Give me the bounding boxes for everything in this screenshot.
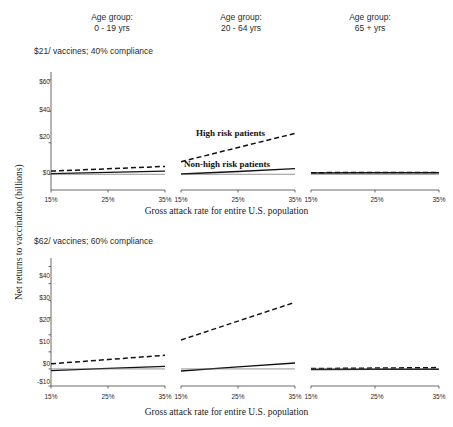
annotation-high-risk-patients: High risk patients bbox=[196, 128, 265, 138]
column-header-label-line1: Age group: bbox=[57, 12, 167, 23]
figure-root: Age group: 0 - 19 yrs Age group: 20 - 64… bbox=[0, 0, 453, 427]
y-tick-label-bottom: -$10 bbox=[22, 378, 50, 385]
column-header-label-line1: Age group: bbox=[186, 12, 296, 23]
row-title-21-40: $21/ vaccines; 40% compliance bbox=[34, 46, 153, 56]
series-line-non-high-risk-patients bbox=[181, 169, 295, 174]
x-tick-label: 15% bbox=[170, 196, 192, 203]
x-tick-label: 35% bbox=[428, 393, 450, 400]
series-line-non-high-risk-patients bbox=[181, 363, 295, 371]
series-line-high-risk-patients bbox=[51, 355, 165, 364]
x-tick-label: 15% bbox=[170, 393, 192, 400]
x-tick-label: 15% bbox=[40, 196, 62, 203]
x-axis-title-top: Gross attack rate for entire U.S. popula… bbox=[0, 206, 453, 216]
y-tick-label-bottom: $20 bbox=[22, 316, 50, 323]
x-tick-label: 25% bbox=[366, 196, 388, 203]
series-group bbox=[51, 133, 439, 371]
x-tick-label: 15% bbox=[300, 196, 322, 203]
x-tick-label: 25% bbox=[97, 196, 119, 203]
column-header-label-line2: 20 - 64 yrs bbox=[186, 23, 296, 34]
column-header-age-65-plus: Age group: 65 + yrs bbox=[315, 12, 425, 33]
x-tick-label: 25% bbox=[227, 393, 249, 400]
column-header-age-20-64: Age group: 20 - 64 yrs bbox=[186, 12, 296, 33]
y-tick-label-bottom: $30 bbox=[22, 294, 50, 301]
x-tick-label: 25% bbox=[227, 196, 249, 203]
y-tick-label-top: $40 bbox=[26, 106, 50, 113]
row-title-62-60: $62/ vaccines; 60% compliance bbox=[34, 236, 153, 246]
series-line-non-high-risk-patients bbox=[51, 366, 165, 370]
x-tick-label: 15% bbox=[40, 393, 62, 400]
y-axis-title: Net returns to vaccination (billions) bbox=[14, 164, 24, 300]
x-tick-label: 15% bbox=[300, 393, 322, 400]
y-tick-label-top: $0 bbox=[26, 169, 50, 176]
column-header-label-line2: 0 - 19 yrs bbox=[57, 23, 167, 34]
y-tick-label-top: $20 bbox=[26, 133, 50, 140]
column-header-label-line2: 65 + yrs bbox=[315, 23, 425, 34]
x-tick-label: 25% bbox=[97, 393, 119, 400]
column-header-label-line1: Age group: bbox=[315, 12, 425, 23]
axes-group bbox=[49, 72, 440, 389]
y-tick-label-bottom: $10 bbox=[22, 338, 50, 345]
x-tick-label: 35% bbox=[428, 196, 450, 203]
x-axis-title-bottom: Gross attack rate for entire U.S. popula… bbox=[0, 407, 453, 417]
y-tick-label-bottom: $40 bbox=[22, 272, 50, 279]
annotation-non-high-risk-patients: Non-high risk patients bbox=[184, 159, 270, 169]
series-line-high-risk-patients bbox=[51, 166, 165, 171]
x-tick-label: 25% bbox=[366, 393, 388, 400]
series-line-high-risk-patients bbox=[311, 368, 439, 369]
series-line-non-high-risk-patients bbox=[51, 171, 165, 174]
column-header-age-0-19: Age group: 0 - 19 yrs bbox=[57, 12, 167, 33]
y-tick-label-top: $60 bbox=[26, 78, 50, 85]
y-tick-label-bottom: $0 bbox=[22, 360, 50, 367]
series-line-high-risk-patients bbox=[181, 302, 295, 340]
